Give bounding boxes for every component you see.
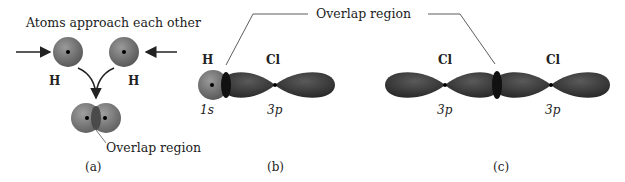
cl-3p-right-inner-lobe bbox=[494, 72, 551, 98]
caption-b: (b) bbox=[267, 160, 284, 174]
cl-3p-lobe-right bbox=[275, 72, 335, 98]
overlap-region bbox=[221, 72, 231, 98]
overlap-region-label-a: Overlap region bbox=[106, 140, 201, 155]
panel-a bbox=[16, 37, 177, 143]
cl-3p-right-outer-lobe bbox=[551, 72, 610, 98]
atom-label-h: H bbox=[202, 53, 213, 67]
panel-a-title: Atoms approach each other bbox=[26, 15, 201, 30]
orbital-label-3p: 3p bbox=[267, 103, 282, 117]
atom-label-cl: Cl bbox=[266, 53, 280, 67]
overlap-region bbox=[91, 106, 101, 130]
overlap-region-label-shared: Overlap region bbox=[316, 6, 411, 21]
orbital-label-3p-right: 3p bbox=[545, 103, 560, 117]
atom-label-cl-left: Cl bbox=[438, 53, 452, 67]
orbital-label-1s: 1s bbox=[200, 103, 214, 117]
cl-3p-left-outer-lobe bbox=[385, 72, 445, 98]
cl-3p-left-inner-lobe bbox=[445, 72, 500, 98]
merge-arrow-right bbox=[96, 68, 114, 98]
panel-c bbox=[385, 14, 610, 99]
orbital-label-3p-left: 3p bbox=[437, 103, 452, 117]
caption-a: (a) bbox=[85, 160, 102, 174]
merge-arrow-left bbox=[78, 68, 96, 98]
atom-label-cl-right: Cl bbox=[546, 53, 560, 67]
caption-c: (c) bbox=[493, 160, 509, 174]
atom-label-h-left: H bbox=[49, 74, 60, 88]
atom-label-h-right: H bbox=[128, 74, 139, 88]
overlap-region bbox=[492, 71, 502, 99]
